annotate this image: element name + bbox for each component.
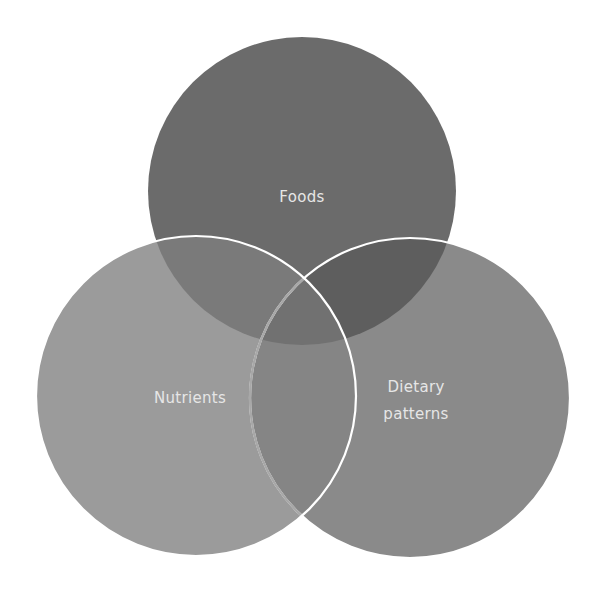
dietary-patterns-label-line2: patterns xyxy=(383,405,448,423)
nutrients-label: Nutrients xyxy=(154,389,226,407)
venn-diagram: Foods Nutrients Dietary patterns xyxy=(0,0,607,593)
foods-label: Foods xyxy=(279,188,324,206)
dietary-patterns-label-line1: Dietary xyxy=(387,378,444,396)
